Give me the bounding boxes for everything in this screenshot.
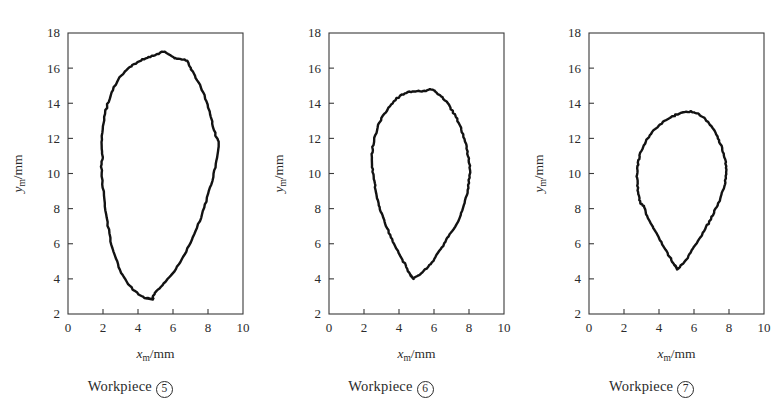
y-tick-label: 4 (53, 271, 60, 286)
y-axis-title: ym/mm (10, 154, 27, 195)
panel-caption: Workpiece5 (0, 378, 261, 398)
y-tick-label: 12 (47, 131, 60, 146)
x-tick-label: 4 (656, 320, 663, 335)
x-tick-label: 2 (621, 320, 628, 335)
x-tick-label: 6 (430, 320, 437, 335)
panel-workpiece-7: 024681024681012141618xm/mmym/mmWorkpiece… (521, 0, 782, 418)
caption-circled-number: 5 (156, 381, 173, 398)
x-tick-label: 4 (135, 320, 142, 335)
y-tick-label: 16 (568, 61, 581, 76)
x-tick-label: 0 (325, 320, 332, 335)
y-tick-label: 18 (47, 26, 60, 41)
y-tick-label: 14 (308, 96, 321, 111)
workpiece-7-cross-section (637, 111, 727, 269)
y-tick-label: 16 (308, 61, 321, 76)
y-tick-label: 14 (568, 96, 581, 111)
workpiece-cross-section-figure: 024681024681012141618xm/mmym/mmWorkpiece… (0, 0, 782, 418)
y-tick-label: 6 (314, 236, 321, 251)
plot-area: 024681024681012141618xm/mmym/mm (0, 0, 261, 380)
y-tick-label: 14 (47, 96, 60, 111)
y-tick-label: 10 (47, 166, 60, 181)
workpiece-6-cross-section (371, 89, 470, 279)
y-tick-label: 8 (53, 201, 60, 216)
caption-text: Workpiece (348, 378, 412, 394)
caption-text: Workpiece (609, 378, 673, 394)
y-axis-title: ym/mm (271, 154, 288, 195)
x-tick-label: 6 (170, 320, 177, 335)
caption-text: Workpiece (88, 378, 152, 394)
y-tick-label: 10 (568, 166, 581, 181)
y-tick-label: 2 (53, 306, 60, 321)
y-tick-label: 2 (314, 306, 321, 321)
x-axis-title: xm/mm (657, 346, 697, 363)
y-tick-label: 12 (568, 131, 581, 146)
x-axis-title: xm/mm (396, 346, 436, 363)
plot-area: 024681024681012141618xm/mmym/mm (521, 0, 782, 380)
x-tick-label: 8 (726, 320, 733, 335)
panel-workpiece-5: 024681024681012141618xm/mmym/mmWorkpiece… (0, 0, 261, 418)
plot-frame (329, 33, 504, 314)
y-tick-label: 10 (308, 166, 321, 181)
y-tick-label: 6 (53, 236, 60, 251)
y-tick-label: 4 (314, 271, 321, 286)
panel-caption: Workpiece6 (261, 378, 522, 398)
panel-caption: Workpiece7 (521, 378, 782, 398)
x-tick-label: 0 (65, 320, 72, 335)
x-tick-label: 10 (237, 320, 250, 335)
y-axis-title: ym/mm (531, 154, 548, 195)
y-tick-label: 16 (47, 61, 60, 76)
x-tick-label: 6 (691, 320, 698, 335)
x-tick-label: 10 (497, 320, 510, 335)
x-tick-label: 10 (758, 320, 771, 335)
panel-workpiece-6: 024681024681012141618xm/mmym/mmWorkpiece… (261, 0, 522, 418)
x-tick-label: 4 (395, 320, 402, 335)
plot-area: 024681024681012141618xm/mmym/mm (261, 0, 522, 380)
caption-circled-number: 7 (677, 381, 694, 398)
y-tick-label: 2 (575, 306, 582, 321)
y-tick-label: 8 (575, 201, 582, 216)
x-tick-label: 8 (465, 320, 472, 335)
y-tick-label: 12 (308, 131, 321, 146)
y-tick-label: 6 (575, 236, 582, 251)
y-tick-label: 8 (314, 201, 321, 216)
x-tick-label: 2 (100, 320, 106, 335)
x-tick-label: 2 (360, 320, 366, 335)
x-axis-title: xm/mm (135, 346, 175, 363)
y-tick-label: 4 (575, 271, 582, 286)
y-tick-label: 18 (308, 26, 321, 41)
x-tick-label: 0 (586, 320, 593, 335)
plot-frame (589, 33, 764, 314)
workpiece-5-cross-section (101, 52, 219, 300)
caption-circled-number: 6 (417, 381, 434, 398)
y-tick-label: 18 (568, 26, 581, 41)
plot-frame (68, 33, 243, 314)
x-tick-label: 8 (205, 320, 212, 335)
